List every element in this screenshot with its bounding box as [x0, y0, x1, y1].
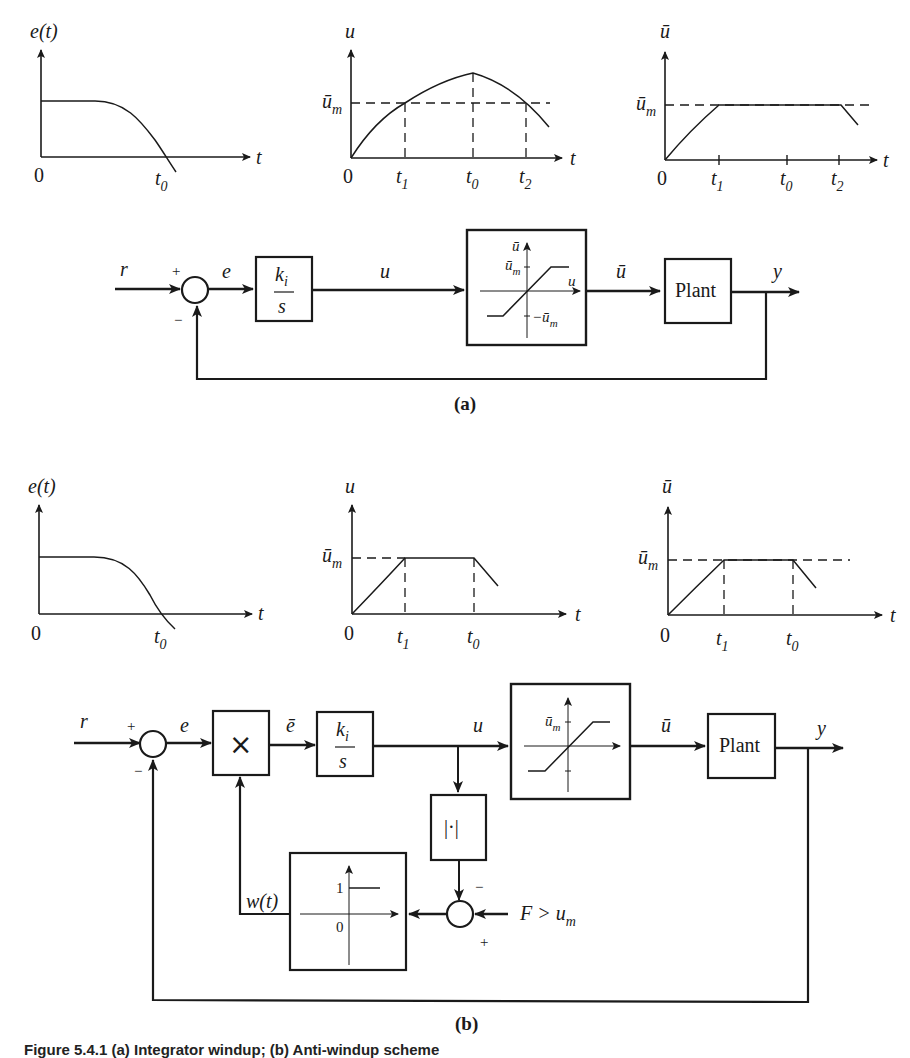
tick-t2: t2	[519, 165, 532, 192]
tick-t0: t0	[154, 625, 167, 652]
signal-y: y	[771, 260, 782, 283]
integrator-denominator: s	[339, 750, 347, 772]
signal-ubar: ū	[661, 714, 671, 736]
signal-w: w(t)	[246, 890, 279, 913]
signal-u: u	[380, 260, 390, 282]
switch-block	[290, 853, 406, 970]
summing-junction	[182, 277, 208, 303]
tick-t1: t1	[397, 625, 410, 652]
tick-t0: t0	[155, 167, 168, 194]
plot-xlabel: t	[570, 147, 576, 169]
saturated-curve	[665, 105, 858, 160]
saturated-curve	[668, 560, 816, 615]
control-curve	[351, 73, 549, 158]
error-curve	[39, 557, 175, 629]
tick-t0: t0	[467, 625, 480, 652]
tick-t0: t0	[786, 627, 799, 654]
error-curve	[41, 101, 176, 172]
origin-label: 0	[343, 165, 353, 187]
part-a-label: (a)	[454, 393, 476, 415]
plot-ylabel: e(t)	[30, 20, 58, 43]
plot-ylabel: e(t)	[28, 475, 56, 498]
level-label: ūm	[638, 546, 658, 573]
sign-plus: +	[172, 263, 180, 279]
signal-y: y	[815, 717, 826, 740]
level-label: ūm	[636, 92, 656, 119]
abs-label: |·|	[444, 816, 459, 839]
feedback-path	[153, 748, 808, 1002]
level-label: ūm	[322, 90, 342, 117]
plot-xlabel: t	[256, 146, 262, 168]
signal-e: e	[180, 714, 189, 736]
part-b-label: (b)	[455, 1013, 478, 1035]
signal-u: u	[473, 714, 483, 736]
control-curve	[352, 558, 498, 614]
sat-xaxis-label: u	[568, 273, 576, 289]
tick-t2: t2	[831, 167, 844, 194]
sat-yaxis-label: ū	[512, 238, 520, 254]
origin-label: 0	[657, 167, 667, 189]
sign-minus: −	[174, 312, 182, 328]
block-diagram-a: r + − e ki s u ū u ūm −ūm ū Plant y	[115, 230, 799, 415]
sign-plus: +	[127, 718, 135, 734]
sign-plus-threshold: +	[480, 934, 488, 950]
threshold-label: F > um	[519, 902, 576, 929]
plant-label: Plant	[675, 279, 717, 301]
plot-ylabel: u	[345, 475, 355, 497]
signal-e: e	[222, 260, 231, 282]
tick-t1: t1	[716, 627, 729, 654]
tick-t1: t1	[711, 167, 724, 194]
signal-r: r	[80, 710, 88, 732]
plot-b-error: e(t) t 0 t0	[28, 475, 264, 652]
tick-t0: t0	[780, 167, 793, 194]
plant-label: Plant	[719, 734, 761, 756]
plot-b-saturated: ū ūm t 0 t1 t0	[638, 475, 896, 654]
sign-minus: −	[134, 763, 142, 779]
plot-xlabel: t	[575, 603, 581, 625]
plot-a-control: u ūm t 0 t1 t0 t2	[322, 20, 576, 192]
plot-a-saturated: ū ūm t 0 t1 t0 t2	[636, 20, 889, 194]
saturation-block	[511, 684, 630, 799]
plot-ylabel: u	[345, 20, 355, 42]
origin-label: 0	[31, 622, 41, 644]
integrator-denominator: s	[278, 295, 286, 317]
signal-ubar: ū	[616, 260, 626, 282]
summing-junction-threshold	[447, 901, 473, 927]
sign-minus-abs: −	[475, 879, 483, 895]
block-diagram-b: r + − e × ē ki s u ūm ū Plant	[74, 684, 843, 1035]
plot-a-error: e(t) t 0 t0	[30, 20, 262, 194]
plot-xlabel: t	[258, 602, 264, 624]
origin-label: 0	[344, 622, 354, 644]
summing-junction-main	[140, 731, 166, 757]
plot-b-control: u ūm t 0 t1 t0	[322, 475, 581, 652]
switch-zero-label: 0	[336, 919, 344, 935]
plot-ylabel: ū	[662, 475, 672, 497]
plot-ylabel: ū	[660, 20, 670, 42]
tick-t0: t0	[466, 165, 479, 192]
switch-one-label: 1	[336, 880, 344, 896]
signal-ebar: ē	[286, 714, 296, 736]
signal-r: r	[120, 258, 128, 280]
plot-xlabel: t	[890, 604, 896, 626]
multiplier-icon: ×	[229, 728, 252, 761]
origin-label: 0	[34, 164, 44, 186]
origin-label: 0	[660, 624, 670, 646]
plot-xlabel: t	[883, 149, 889, 171]
figure-caption: Figure 5.4.1 (a) Integrator windup; (b) …	[24, 1041, 439, 1058]
tick-t1: t1	[396, 165, 409, 192]
level-label: ūm	[322, 544, 342, 571]
